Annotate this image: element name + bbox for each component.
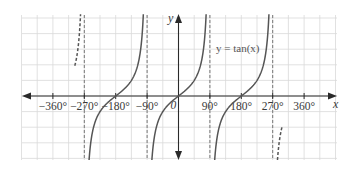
x-tick-label: 360° xyxy=(293,100,315,112)
function-label: y = tan(x) xyxy=(216,42,260,55)
tan-graph: y x −360°−270°−180°−90°090°180°270°360° … xyxy=(0,0,355,170)
tan-curve xyxy=(89,14,143,160)
x-axis-label: x xyxy=(332,97,339,111)
x-tick-label: 270° xyxy=(262,100,284,112)
x-tick-label: −270° xyxy=(70,100,99,112)
x-axis-left-arrow-icon xyxy=(22,93,31,100)
x-tick-label: 90° xyxy=(202,100,219,112)
tan-curve-dashed xyxy=(75,14,81,66)
x-tick-label: −180° xyxy=(102,100,131,112)
x-tick-label: −90° xyxy=(136,100,159,112)
tan-curve xyxy=(215,14,269,160)
grid xyxy=(22,15,338,160)
y-axis-label: y xyxy=(167,11,174,25)
x-tick-label: −360° xyxy=(39,100,68,112)
y-axis-up-arrow-icon xyxy=(175,14,182,23)
